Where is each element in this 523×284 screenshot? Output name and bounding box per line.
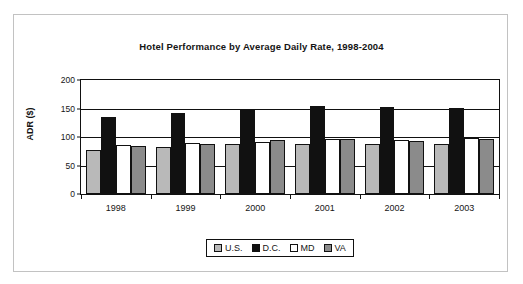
bar-us-2000 (225, 144, 240, 194)
bar-md-2003 (464, 138, 479, 194)
bar-dc-2003 (449, 108, 464, 194)
legend-item-us[interactable]: U.S. (214, 243, 243, 253)
bars-layer (81, 80, 499, 194)
y-tick-label: 100 (61, 132, 75, 142)
x-tick-mark (220, 194, 221, 199)
bar-va-1998 (131, 146, 146, 194)
y-tick-label: 150 (61, 104, 75, 114)
y-tick-label: 200 (61, 75, 75, 85)
bar-va-2001 (340, 139, 355, 194)
bar-us-2002 (365, 144, 380, 194)
x-tick-mark (429, 194, 430, 199)
chart-legend: U.S.D.C.MDVA (206, 239, 354, 257)
x-tick-label-1999: 1999 (175, 203, 195, 213)
x-tick-label-2001: 2001 (315, 203, 335, 213)
legend-label: U.S. (225, 243, 243, 253)
bar-us-1998 (86, 150, 101, 194)
y-tick-label: 50 (66, 161, 75, 171)
plot-area: 050100150200 199819992000200120022003 (80, 79, 500, 195)
bar-group (295, 80, 355, 194)
bar-us-2001 (295, 144, 310, 194)
legend-label: VA (335, 243, 346, 253)
bar-group (225, 80, 285, 194)
legend-item-dc[interactable]: D.C. (252, 243, 281, 253)
y-tick-label: 0 (70, 189, 75, 199)
bar-md-2000 (255, 142, 270, 194)
bar-group (365, 80, 425, 194)
bar-va-2002 (409, 141, 424, 194)
x-tick-mark (81, 194, 82, 199)
bar-us-2003 (434, 144, 449, 194)
x-tick-label-2003: 2003 (454, 203, 474, 213)
bar-dc-2002 (380, 107, 395, 194)
x-tick-mark (360, 194, 361, 199)
y-axis-title: ADR ($) (25, 94, 35, 154)
legend-swatch-icon (324, 244, 332, 252)
figure-root: Hotel Performance by Average Daily Rate,… (0, 0, 523, 284)
legend-label: MD (301, 243, 315, 253)
bar-md-1998 (116, 145, 131, 194)
chart-title: Hotel Performance by Average Daily Rate,… (14, 41, 509, 52)
bar-us-1999 (156, 147, 171, 194)
figure-frame: Hotel Performance by Average Daily Rate,… (13, 14, 508, 272)
legend-item-va[interactable]: VA (324, 243, 346, 253)
bar-group (86, 80, 146, 194)
bar-dc-1998 (101, 117, 116, 194)
bar-md-1999 (185, 143, 200, 194)
bar-md-2002 (394, 140, 409, 194)
bar-group (434, 80, 494, 194)
legend-swatch-icon (252, 244, 260, 252)
bar-va-2003 (479, 139, 494, 194)
bar-md-2001 (325, 139, 340, 194)
legend-swatch-icon (214, 244, 222, 252)
x-tick-label-2002: 2002 (384, 203, 404, 213)
x-tick-label-1998: 1998 (106, 203, 126, 213)
x-tick-label-2000: 2000 (245, 203, 265, 213)
bar-group (156, 80, 216, 194)
bar-dc-1999 (171, 113, 186, 194)
x-tick-mark (290, 194, 291, 199)
bar-va-2000 (270, 140, 285, 194)
legend-label: D.C. (263, 243, 281, 253)
bar-dc-2000 (240, 109, 255, 195)
legend-item-md[interactable]: MD (290, 243, 315, 253)
x-tick-mark (151, 194, 152, 199)
bar-va-1999 (200, 144, 215, 194)
legend-swatch-icon (290, 244, 298, 252)
x-tick-mark (499, 194, 500, 199)
bar-dc-2001 (310, 106, 325, 194)
